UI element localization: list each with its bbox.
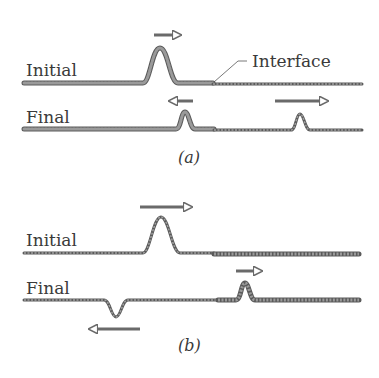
initial-label-a: Initial (26, 60, 77, 80)
interface-label: Interface (252, 51, 331, 71)
panel-a: Initial Interface Final (a) (24, 35, 362, 167)
panel-b: Initial Final (b) (24, 207, 359, 355)
caption-b: (b) (178, 336, 201, 355)
string-light-final-a (214, 114, 362, 130)
caption-a: (a) (178, 148, 200, 167)
interface-leader-line (214, 61, 247, 82)
final-label-b: Final (26, 278, 70, 298)
initial-label-b: Initial (26, 230, 77, 250)
diagram-svg: Initial Interface Final (a) Initial Fina… (0, 0, 379, 378)
final-label-a: Final (26, 107, 70, 127)
wave-reflection-diagram: Initial Interface Final (a) Initial Fina… (0, 0, 379, 378)
